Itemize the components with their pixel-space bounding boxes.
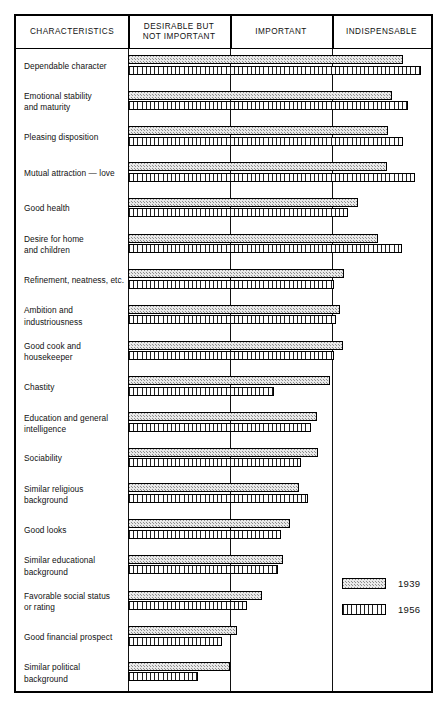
bar-1956: [128, 672, 198, 681]
row-label: Good financial prospect: [24, 632, 128, 643]
row-label-line1: Sociability: [24, 453, 62, 463]
row-label-line1: Similar educational: [24, 555, 95, 565]
row-label-line1: Favorable social status: [24, 591, 110, 601]
chart-row: Education and generalintelligence: [16, 406, 431, 442]
bar-1939: [128, 448, 318, 457]
bar-1939: [128, 555, 283, 564]
row-label-line1: Refinement, neatness, etc.: [24, 275, 124, 285]
bar-1956: [128, 351, 334, 360]
chart-row: Desire for homeand children: [16, 228, 431, 264]
bar-1956: [128, 137, 403, 146]
chart-row: Sociability: [16, 442, 431, 478]
header-important: IMPORTANT: [230, 16, 332, 48]
row-label: Dependable character: [24, 61, 128, 72]
row-label-line2: industriousness: [24, 317, 82, 327]
bar-1939: [128, 126, 388, 135]
bar-1956: [128, 565, 278, 574]
row-label-line1: Dependable character: [24, 61, 107, 71]
header-desirable-not-important: DESIRABLE BUT NOT IMPORTANT: [128, 16, 230, 48]
chart-row: Similar educationalbackground: [16, 549, 431, 585]
row-label-line1: Good cook and: [24, 341, 81, 351]
bar-1956: [128, 101, 408, 110]
row-label-line1: Good health: [24, 203, 70, 213]
chart-row: Ambition andindustriousness: [16, 299, 431, 335]
row-label: Good health: [24, 203, 128, 214]
row-label-line2: or rating: [24, 602, 55, 612]
row-label-line1: Good looks: [24, 525, 66, 535]
bar-1956: [128, 423, 311, 432]
row-label-line2: intelligence: [24, 424, 66, 434]
bar-1939: [128, 91, 392, 100]
row-label-line1: Similar religious: [24, 484, 83, 494]
chart-frame: CHARACTERISTICS DESIRABLE BUT NOT IMPORT…: [14, 14, 433, 693]
bar-1956: [128, 244, 402, 253]
row-label-line2: background: [24, 567, 68, 577]
row-label-line1: Chastity: [24, 382, 54, 392]
row-label: Sociability: [24, 453, 128, 464]
chart-row: Chastity: [16, 370, 431, 406]
row-label-line1: Desire for home: [24, 234, 84, 244]
row-label-line1: Emotional stability: [24, 91, 92, 101]
row-label: Similar educationalbackground: [24, 555, 128, 577]
chart-row: Mutual attraction — love: [16, 156, 431, 192]
chart-row: Good looks: [16, 513, 431, 549]
bar-1956: [128, 458, 301, 467]
table-header-row: CHARACTERISTICS DESIRABLE BUT NOT IMPORT…: [16, 16, 431, 49]
bar-1956: [128, 208, 348, 217]
header-characteristics-label: CHARACTERISTICS: [30, 27, 114, 38]
row-label-line2: and maturity: [24, 102, 70, 112]
chart-row: Good health: [16, 192, 431, 228]
header-indispensable-label: INDISPENSABLE: [346, 27, 417, 38]
row-label-line2: housekeeper: [24, 352, 73, 362]
row-label-line1: Good financial prospect: [24, 632, 112, 642]
header-characteristics: CHARACTERISTICS: [16, 16, 128, 48]
row-label: Ambition andindustriousness: [24, 305, 128, 327]
row-label: Desire for homeand children: [24, 234, 128, 256]
bar-1956: [128, 601, 247, 610]
bar-1956: [128, 280, 334, 289]
row-label: Mutual attraction — love: [24, 168, 128, 179]
chart-row: Good cook andhousekeeper: [16, 335, 431, 371]
bar-1939: [128, 376, 330, 385]
row-label: Pleasing disposition: [24, 132, 128, 143]
row-label-line2: background: [24, 674, 68, 684]
bar-1956: [128, 530, 281, 539]
bar-1939: [128, 198, 358, 207]
bar-1956: [128, 66, 421, 75]
row-label-line1: Pleasing disposition: [24, 132, 98, 142]
chart-row: Similar politicalbackground: [16, 656, 431, 692]
bar-1956: [128, 387, 274, 396]
row-label-line1: Education and general: [24, 413, 108, 423]
row-label: Emotional stabilityand maturity: [24, 91, 128, 113]
bar-1956: [128, 637, 222, 646]
bar-1939: [128, 626, 237, 635]
row-label-line2: background: [24, 495, 68, 505]
chart-row: Good financial prospect: [16, 620, 431, 656]
bar-1956: [128, 494, 308, 503]
row-label-line1: Ambition and: [24, 305, 73, 315]
row-label: Education and generalintelligence: [24, 413, 128, 435]
row-label: Chastity: [24, 382, 128, 393]
header-desirable-line1: DESIRABLE BUT: [144, 22, 214, 31]
row-label: Good looks: [24, 525, 128, 536]
row-label: Refinement, neatness, etc.: [24, 275, 128, 286]
bar-1956: [128, 173, 415, 182]
bar-1939: [128, 305, 340, 314]
row-label: Similar religiousbackground: [24, 484, 128, 506]
row-label-line1: Mutual attraction — love: [24, 168, 115, 178]
header-indispensable: INDISPENSABLE: [332, 16, 431, 48]
row-label: Similar politicalbackground: [24, 662, 128, 684]
header-important-label: IMPORTANT: [255, 27, 307, 38]
row-label-line2: and children: [24, 245, 70, 255]
bar-1939: [128, 162, 387, 171]
bar-1939: [128, 483, 299, 492]
bar-1939: [128, 519, 290, 528]
header-desirable-line2: NOT IMPORTANT: [143, 32, 216, 41]
chart-row: Refinement, neatness, etc.: [16, 263, 431, 299]
row-label: Favorable social statusor rating: [24, 591, 128, 613]
row-label: Good cook andhousekeeper: [24, 341, 128, 363]
chart-row: Similar religiousbackground: [16, 477, 431, 513]
bar-1939: [128, 591, 262, 600]
row-label-line1: Similar political: [24, 662, 80, 672]
chart-row: Dependable character: [16, 49, 431, 85]
